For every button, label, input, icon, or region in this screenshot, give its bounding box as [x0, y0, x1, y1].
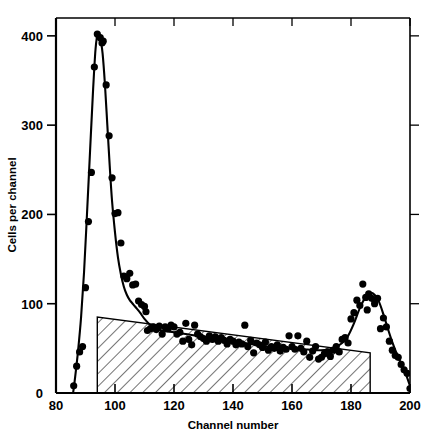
data-point: [336, 348, 343, 355]
x-tick-label: 160: [281, 398, 303, 413]
y-tick-label: 0: [36, 386, 43, 401]
data-point: [85, 218, 92, 225]
data-point: [306, 354, 313, 361]
data-point: [262, 339, 269, 346]
data-point: [108, 174, 115, 181]
data-point: [386, 338, 393, 345]
y-axis-title: Cells per channel: [6, 157, 18, 252]
data-point: [356, 302, 363, 309]
x-tick-label: 200: [399, 398, 421, 413]
y-tick-label: 200: [21, 207, 43, 222]
x-tick-label: 80: [49, 398, 63, 413]
data-point: [70, 382, 77, 389]
data-point: [327, 353, 334, 360]
data-point: [380, 314, 387, 321]
data-point: [170, 323, 177, 330]
y-tick-label: 300: [21, 118, 43, 133]
data-point: [182, 320, 189, 327]
data-point: [395, 354, 402, 361]
data-point: [126, 270, 133, 277]
data-point: [132, 280, 139, 287]
y-tick-group: [47, 36, 419, 304]
data-point: [159, 330, 166, 337]
y-tick-label: 400: [21, 29, 43, 44]
data-point: [91, 64, 98, 71]
data-point: [285, 332, 292, 339]
x-tick-label: 120: [163, 398, 185, 413]
x-axis-title: Channel number: [188, 419, 279, 431]
y-tick-label: 100: [21, 297, 43, 312]
data-point: [114, 209, 121, 216]
data-point: [383, 323, 390, 330]
data-point: [103, 81, 110, 88]
data-point: [312, 343, 319, 350]
data-point: [88, 169, 95, 176]
data-point: [300, 348, 307, 355]
data-point: [294, 332, 301, 339]
chart-canvas: 80100120140160180200 0100200300400 Chann…: [0, 0, 431, 436]
data-point: [188, 341, 195, 348]
data-point: [344, 339, 351, 346]
data-point: [73, 363, 80, 370]
data-point: [374, 295, 381, 302]
x-tick-label: 140: [222, 398, 244, 413]
x-tick-label-group: 80100120140160180200: [49, 398, 421, 413]
x-tick-label: 180: [340, 398, 362, 413]
data-point: [350, 309, 357, 316]
data-point: [241, 322, 248, 329]
data-point: [117, 239, 124, 246]
data-point: [142, 308, 149, 315]
x-tick-label: 100: [104, 398, 126, 413]
y-tick-label-group: 0100200300400: [21, 29, 43, 401]
data-point: [106, 132, 113, 139]
data-point: [82, 284, 89, 291]
data-point: [359, 280, 366, 287]
data-point: [191, 322, 198, 329]
data-point: [100, 38, 107, 45]
data-point: [347, 315, 354, 322]
data-point: [79, 343, 86, 350]
data-point: [250, 349, 257, 356]
data-point: [303, 338, 310, 345]
data-point: [176, 329, 183, 336]
data-point: [364, 306, 371, 313]
data-point: [244, 343, 251, 350]
figure-container: 80100120140160180200 0100200300400 Chann…: [0, 0, 431, 436]
